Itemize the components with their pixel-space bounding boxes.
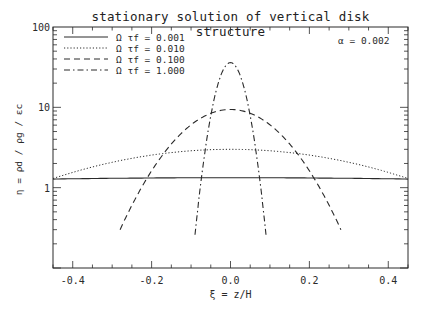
curve-dashed: [120, 110, 341, 230]
x-tick-label: 0.4: [379, 275, 397, 286]
curve-solid: [53, 178, 408, 179]
x-tick-label: -0.4: [61, 275, 85, 286]
legend: Ω τf = 0.001Ω τf = 0.010Ω τf = 0.100Ω τf…: [64, 32, 185, 76]
y-axis-label: η = ρd / ρg / εc: [13, 104, 24, 196]
chart-canvas: -0.4-0.20.00.20.4110100 Ω τf = 0.001Ω τf…: [0, 0, 428, 311]
x-tick-label: -0.2: [140, 275, 164, 286]
legend-label: Ω τf = 0.100: [116, 54, 185, 65]
legend-label: Ω τf = 1.000: [116, 65, 185, 76]
legend-label: Ω τf = 0.010: [116, 43, 185, 54]
curve-dashdot: [195, 63, 266, 235]
x-axis-label: ξ = z/H: [209, 289, 251, 300]
curve-dotted: [53, 149, 408, 178]
data-curves: [53, 63, 408, 235]
y-tick-label: 10: [38, 102, 50, 113]
y-tick-label: 100: [32, 22, 50, 33]
x-tick-label: 0.0: [221, 275, 239, 286]
y-tick-label: 1: [44, 183, 50, 194]
y-axis-label-text: η = ρd / ρg / εc: [13, 104, 24, 196]
x-tick-label: 0.2: [300, 275, 318, 286]
alpha-annotation: α = 0.002: [338, 35, 389, 46]
tick-labels: -0.4-0.20.00.20.4110100: [32, 22, 397, 286]
legend-label: Ω τf = 0.001: [116, 32, 185, 43]
